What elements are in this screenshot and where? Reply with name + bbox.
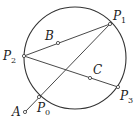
point-A bbox=[23, 110, 26, 113]
segments bbox=[24, 24, 118, 112]
geometry-diagram: P0P1P2P3ABC bbox=[0, 0, 140, 122]
label-P2: P2 bbox=[2, 49, 16, 65]
segment-P2-P1 bbox=[24, 24, 110, 56]
segment-P2-P3 bbox=[24, 56, 118, 87]
label-B: B bbox=[44, 29, 54, 43]
point-C bbox=[88, 76, 91, 79]
point-P2 bbox=[22, 54, 25, 57]
point-B bbox=[56, 41, 59, 44]
point-P0 bbox=[37, 95, 40, 98]
label-A: A bbox=[11, 105, 21, 119]
label-P3: P3 bbox=[119, 89, 133, 105]
label-C: C bbox=[93, 63, 102, 77]
label-P0: P0 bbox=[36, 101, 50, 117]
point-P1 bbox=[108, 22, 111, 25]
labels: P0P1P2P3ABC bbox=[2, 9, 133, 119]
label-P1: P1 bbox=[112, 9, 126, 25]
